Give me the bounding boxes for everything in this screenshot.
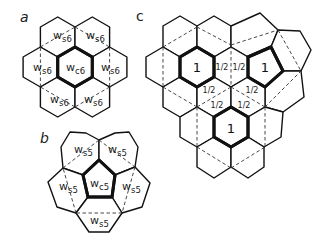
- half-weight-label: 1/2: [211, 101, 224, 110]
- half-weight-label: 1/2: [246, 86, 259, 95]
- unit-weight-label: 1: [193, 60, 201, 75]
- panel-a: aws6ws6ws6wc6ws6ws6ws6: [20, 9, 127, 117]
- panel-label: a: [20, 9, 29, 25]
- panel-b: bws5ws5ws5wc5ws5ws5: [40, 130, 150, 232]
- panel-label: b: [40, 130, 49, 146]
- cell-tiling-figure: aws6ws6ws6wc6ws6ws6ws6 bws5ws5ws5wc5ws5w…: [0, 0, 326, 245]
- half-weight-label: 1/2: [216, 63, 229, 72]
- unit-weight-label: 1: [261, 60, 269, 75]
- panel-label: c: [136, 8, 144, 24]
- half-weight-label: 1/2: [238, 101, 251, 110]
- half-weight-label: 1/2: [203, 86, 216, 95]
- panel-c: c1111/21/21/21/21/21/2: [136, 8, 311, 178]
- unit-weight-label: 1: [227, 121, 235, 136]
- half-weight-label: 1/2: [233, 63, 246, 72]
